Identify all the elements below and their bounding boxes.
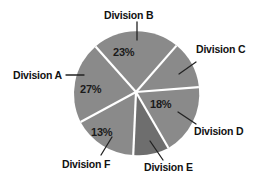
pie-chart-graphic [0, 0, 256, 180]
slice-value-division-a: 27% [80, 84, 101, 95]
callout-label-division-c: Division C [196, 44, 245, 55]
callout-label-division-d: Division D [194, 126, 243, 137]
pie-chart-figure: 23% 27% 18% 13% Division B Division C Di… [0, 0, 256, 180]
callout-label-division-b: Division B [104, 10, 153, 21]
slice-value-division-f: 13% [91, 127, 112, 138]
callout-label-division-e: Division E [144, 162, 193, 173]
slice-value-division-b: 23% [113, 47, 134, 58]
slice-value-division-d: 18% [150, 99, 171, 110]
callout-label-division-f: Division F [62, 159, 110, 170]
callout-label-division-a: Division A [13, 70, 62, 81]
